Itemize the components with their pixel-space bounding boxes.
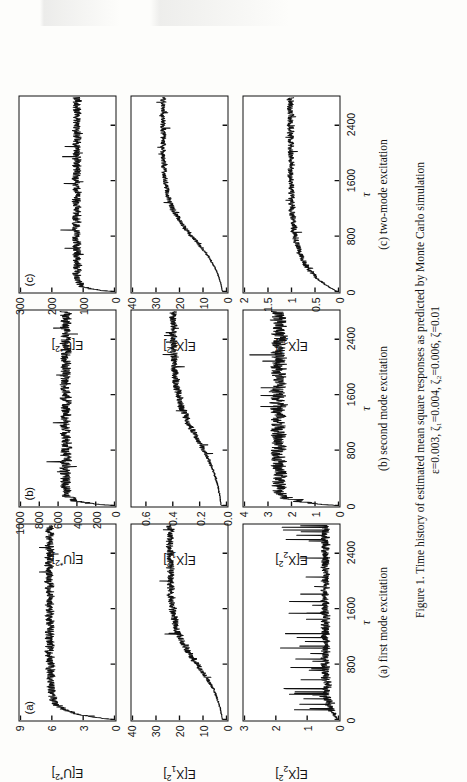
x-tick-label: 2400	[344, 112, 356, 135]
y-tick-label: 100	[77, 297, 89, 329]
y-axis-label-c-bot: E[X22]	[275, 336, 307, 354]
y-tick-label: 2	[237, 297, 249, 329]
x-axis-label-a-bot: τ	[358, 620, 373, 624]
y-tick-label: 1	[285, 297, 297, 329]
y-tick-label: 400	[71, 511, 83, 543]
y-axis-label-c-mid: E[X12]	[163, 336, 195, 354]
figure-caption-line-1: Figure 1. Time history of estimated mean…	[412, 0, 427, 779]
y-tick-label: 40	[125, 297, 137, 329]
y-tick-label: 30	[149, 297, 161, 329]
panel-tag-a-top: (a)	[22, 701, 34, 714]
y-tick-label: 1.5	[261, 297, 273, 329]
y-tick-label: 1000	[13, 511, 25, 543]
y-tick-label: 10	[197, 725, 209, 757]
y-tick-label: 3	[261, 511, 273, 543]
y-tick-label: 1	[309, 511, 321, 543]
y-tick-label: 3	[237, 725, 249, 757]
figure-caption: Figure 1. Time history of estimated mean…	[412, 0, 441, 779]
x-tick-label: 0	[344, 717, 356, 723]
y-tick-label: 20	[173, 297, 185, 329]
y-axis-label-b-top: E[U*2]	[51, 551, 83, 567]
y-tick-label: 800	[32, 511, 44, 543]
panel-tag-b-top: (b)	[22, 487, 34, 500]
y-axis-label-a-top: E[U*2]	[51, 765, 83, 781]
y-tick-label: 0	[221, 725, 233, 757]
y-tick-label: 200	[90, 511, 102, 543]
y-tick-label: 0	[109, 511, 121, 543]
y-tick-label: 6	[45, 725, 57, 757]
figure-caption-line-2: ε=0.003, ζ₁=0.004, ζ₂=0.006, ζ=0.01	[427, 0, 442, 779]
y-tick-label: 0	[333, 725, 345, 757]
x-tick-label: 0	[344, 289, 356, 295]
x-tick-label: 0	[344, 503, 356, 509]
y-tick-label: 0.2	[194, 511, 206, 543]
y-tick-label: 0	[333, 511, 345, 543]
plot-grid: (a)0369E[U*2]010203040E[X12]0123E[X22]08…	[18, 31, 348, 721]
y-tick-label: 0.6	[139, 511, 151, 543]
y-tick-label: 0.5	[309, 297, 321, 329]
y-tick-label: 10	[197, 297, 209, 329]
plot-panel-c-top: (c)	[18, 95, 116, 293]
x-tick-label: 800	[344, 655, 356, 673]
x-tick-label: 2400	[344, 540, 356, 563]
y-tick-label: 600	[51, 511, 63, 543]
y-axis-label-c-top: E[U*2]	[51, 337, 83, 353]
x-axis-label-b-bot: τ	[358, 406, 373, 410]
y-tick-label: 0.4	[166, 511, 178, 543]
sub-caption-a: (a) first mode excitation	[376, 567, 388, 678]
y-axis-label-a-mid: E[X12]	[163, 764, 195, 782]
y-tick-label: 0	[333, 297, 345, 329]
x-tick-label: 2400	[344, 326, 356, 349]
y-tick-label: 30	[149, 725, 161, 757]
y-tick-label: 200	[45, 297, 57, 329]
y-tick-label: 0	[109, 297, 121, 329]
y-axis-label-b-mid: E[X12]	[163, 550, 195, 568]
y-axis-label-a-bot: E[X22]	[275, 764, 307, 782]
y-tick-label: 300	[13, 297, 25, 329]
sub-caption-b: (b) second mode excitation	[376, 346, 388, 471]
y-tick-label: 2	[269, 725, 281, 757]
y-tick-label: 3	[77, 725, 89, 757]
y-tick-label: 2	[285, 511, 297, 543]
y-tick-label: 9	[13, 725, 25, 757]
sub-caption-c: (c) two-mode excitation	[376, 139, 388, 250]
plot-panel-c-mid	[130, 95, 228, 293]
x-tick-label: 1600	[344, 596, 356, 619]
y-tick-label: 0	[221, 297, 233, 329]
y-axis-label-b-bot: E[X22]	[275, 550, 307, 568]
y-tick-label: 4	[237, 511, 249, 543]
x-tick-label: 800	[344, 227, 356, 245]
x-tick-label: 1600	[344, 168, 356, 191]
plot-panel-c-bot	[242, 95, 340, 293]
y-tick-label: 20	[173, 725, 185, 757]
x-axis-label-c-bot: τ	[358, 192, 373, 196]
y-tick-label: 1	[301, 725, 313, 757]
y-tick-label: 40	[125, 725, 137, 757]
panel-tag-c-top: (c)	[22, 273, 34, 286]
x-tick-label: 1600	[344, 382, 356, 405]
x-tick-label: 800	[344, 441, 356, 459]
y-tick-label: 0.0	[221, 511, 233, 543]
y-tick-label: 0	[109, 725, 121, 757]
